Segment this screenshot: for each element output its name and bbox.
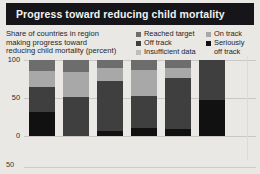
legend-column-left: Reached target Off track Insufficient da…: [136, 30, 206, 57]
legend: Reached target Off track Insufficient da…: [136, 30, 258, 58]
page-title: Progress toward reducing child mortality: [16, 8, 225, 20]
bar-segment-off-track: [63, 97, 89, 136]
bar-segment-reached-target: [29, 60, 55, 71]
bar-3: [97, 60, 123, 136]
bar-segment-off-track: [165, 78, 191, 129]
bar-2: [63, 60, 89, 136]
caption-line-3: reducing child mortality (percent): [6, 47, 134, 56]
bar-segment-on-track: [63, 72, 89, 97]
bar-segment-reached-target: [165, 60, 191, 68]
bar-segment-seriously-off-track: [165, 129, 191, 136]
legend-swatch-off-track: [136, 41, 141, 46]
bar-segment-on-track: [29, 71, 55, 87]
bar-segment-reached-target: [63, 60, 89, 72]
stray-gridline: [24, 167, 256, 168]
legend-item-seriously-off-track: Seriously off track: [206, 39, 260, 56]
bars-container: [26, 56, 254, 148]
axis-caption: Share of countries in region making prog…: [6, 30, 134, 56]
title-bar: Progress toward reducing child mortality: [6, 3, 254, 25]
legend-swatch-reached-target: [136, 32, 141, 37]
bar-segment-reached-target: [131, 60, 157, 70]
legend-column-right: On track Seriously off track: [206, 30, 260, 57]
bar-segment-reached-target: [97, 60, 123, 68]
bar-segment-seriously-off-track: [199, 100, 225, 136]
bar-segment-on-track: [97, 68, 123, 80]
plot-area: 100 50 0: [0, 56, 260, 148]
plot-right-edge: [247, 56, 248, 160]
stray-y-tick: 50: [6, 160, 14, 169]
bar-segment-on-track: [165, 68, 191, 78]
y-tick-0: 0: [0, 132, 20, 140]
bar-segment-off-track: [131, 96, 157, 128]
y-tick-50: 50: [0, 94, 20, 102]
bar-4: [131, 60, 157, 136]
bar-segment-seriously-off-track: [29, 112, 55, 136]
bar-5: [165, 60, 191, 136]
bar-segment-off-track: [97, 81, 123, 132]
legend-swatch-seriously-off-track: [206, 41, 211, 46]
bar-segment-seriously-off-track: [97, 131, 123, 136]
bar-segment-off-track: [29, 87, 55, 113]
bar-segment-on-track: [131, 70, 157, 96]
bar-segment-off-track: [199, 60, 225, 100]
bar-1: [29, 60, 55, 136]
bar-6: [199, 60, 225, 136]
legend-label-seriously-off-track-cont: off track: [214, 48, 240, 57]
legend-swatch-on-track: [206, 32, 211, 37]
legend-swatch-insufficient-data: [136, 50, 141, 55]
y-tick-100: 100: [0, 56, 20, 64]
bar-segment-seriously-off-track: [131, 128, 157, 136]
chart-figure: Progress toward reducing child mortality…: [0, 0, 260, 174]
cut-off-axis-remnant: 50: [0, 160, 260, 174]
